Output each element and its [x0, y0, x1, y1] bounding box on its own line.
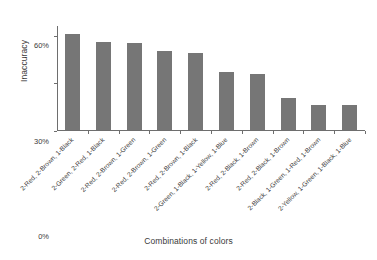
x-tick-mark	[365, 131, 366, 134]
bar-chart-figure: Inaccuracy 0%30%60% 2-Red, 2-Brown, 1-Bl…	[0, 0, 377, 260]
bar	[96, 42, 111, 130]
y-tick-mark: 60%	[54, 36, 57, 37]
bar	[65, 34, 80, 130]
x-tick-mark	[334, 131, 335, 134]
y-tick-label: 60%	[34, 41, 49, 50]
bar	[311, 105, 326, 130]
x-tick-mark	[273, 131, 274, 134]
bar	[219, 72, 234, 130]
y-axis-line	[57, 26, 58, 131]
x-tick-mark	[149, 131, 150, 134]
x-tick-mark	[119, 131, 120, 134]
bar	[281, 98, 296, 130]
x-tick-mark	[211, 131, 212, 134]
bar	[342, 105, 357, 130]
x-axis-title: Combinations of colors	[0, 236, 377, 246]
x-tick-mark	[303, 131, 304, 134]
bar	[188, 53, 203, 130]
y-tick-mark: 30%	[54, 83, 57, 84]
x-tick-mark	[242, 131, 243, 134]
y-tick-mark: 0%	[54, 131, 57, 132]
x-tick-mark	[180, 131, 181, 134]
y-tick-label: 30%	[34, 136, 49, 145]
x-tick-mark	[88, 131, 89, 134]
y-axis-title: Inaccuracy	[19, 16, 29, 106]
plot-area: 0%30%60%	[57, 26, 365, 131]
bar	[250, 74, 265, 130]
bar	[157, 51, 172, 130]
bar	[127, 43, 142, 130]
